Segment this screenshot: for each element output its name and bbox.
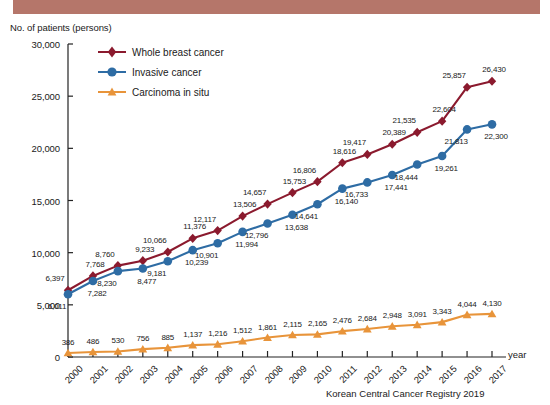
data-point-marker: [164, 247, 172, 256]
data-point-label: 21,813: [444, 137, 467, 146]
data-point-label: 19,261: [434, 164, 457, 173]
data-point-marker: [463, 125, 472, 134]
data-point-label: 17,441: [385, 183, 408, 192]
data-point-marker: [139, 264, 148, 273]
data-point-label: 10,901: [195, 251, 218, 260]
data-point-label: 1,512: [233, 326, 252, 335]
data-point-marker: [89, 277, 98, 286]
data-point-label: 486: [87, 336, 100, 345]
data-point-label: 11,994: [235, 239, 258, 248]
data-point-label: 18,616: [333, 146, 356, 155]
data-point-label: 22,604: [432, 105, 455, 114]
y-axis-tick-label: 0: [14, 352, 60, 363]
data-point-label: 885: [161, 332, 174, 341]
data-point-label: 6,397: [45, 274, 64, 283]
data-point-label: 756: [136, 334, 149, 343]
data-point-label: 2,165: [308, 319, 327, 328]
data-point-marker: [213, 239, 222, 248]
y-axis-tick-label: 25,000: [14, 91, 60, 102]
plot-area: [0, 0, 550, 405]
y-axis-tick-label: 15,000: [14, 195, 60, 206]
data-point-label: 15,753: [283, 176, 306, 185]
data-point-label: 7,282: [87, 289, 106, 298]
data-point-label: 13,506: [233, 200, 256, 209]
data-point-marker: [413, 160, 422, 169]
data-point-label: 1,861: [258, 322, 277, 331]
data-point-label: 3,343: [433, 307, 452, 316]
data-point-marker: [438, 152, 447, 161]
data-point-label: 8,760: [95, 249, 114, 258]
data-point-marker: [263, 199, 271, 208]
data-point-label: 6,011: [48, 302, 66, 311]
y-axis-tick-label: 20,000: [14, 143, 60, 154]
data-point-label: 26,430: [482, 65, 505, 74]
y-axis-tick-label: 10,000: [14, 247, 60, 258]
data-point-label: 14,641: [295, 212, 318, 221]
data-point-label: 4,044: [458, 299, 477, 308]
data-point-marker: [413, 128, 421, 137]
data-point-label: 16,733: [345, 190, 368, 199]
data-point-label: 3,091: [408, 309, 427, 318]
data-point-label: 4,130: [482, 298, 501, 307]
data-point-label: 7,768: [85, 259, 104, 268]
data-point-label: 19,417: [343, 138, 366, 147]
data-point-marker: [238, 211, 246, 220]
data-point-label: 11,376: [183, 222, 206, 231]
data-point-marker: [363, 178, 372, 187]
data-point-marker: [163, 257, 172, 266]
data-point-marker: [189, 234, 197, 243]
data-point-label: 14,657: [243, 188, 266, 197]
data-point-marker: [263, 219, 272, 228]
data-point-label: 10,066: [143, 235, 166, 244]
data-point-label: 530: [112, 336, 125, 345]
y-axis-tick-label: 30,000: [14, 39, 60, 50]
data-point-label: 12,117: [193, 214, 216, 223]
data-point-label: 9,233: [135, 244, 154, 253]
data-point-label: 20,389: [383, 128, 406, 137]
data-point-label: 2,115: [283, 319, 301, 328]
source-note: Korean Central Cancer Registry 2019: [326, 388, 484, 399]
data-point-label: 22,300: [484, 132, 507, 141]
data-point-label: 1,137: [183, 330, 202, 339]
data-point-label: 16,806: [293, 165, 316, 174]
data-point-label: 18,444: [395, 172, 418, 181]
data-point-label: 8,230: [97, 279, 116, 288]
data-point-marker: [213, 226, 221, 235]
data-point-marker: [288, 188, 296, 197]
data-point-marker: [114, 267, 123, 276]
data-point-marker: [363, 150, 371, 159]
data-point-label: 13,638: [285, 222, 308, 231]
data-point-label: 2,476: [333, 316, 352, 325]
data-point-label: 25,857: [442, 71, 465, 80]
data-point-label: 21,535: [393, 116, 416, 125]
data-point-marker: [64, 290, 73, 299]
breast-cancer-incidence-chart: No. of patients (persons) year Whole bre…: [0, 0, 550, 405]
data-point-label: 386: [62, 337, 75, 346]
data-point-label: 9,181: [147, 269, 166, 278]
data-point-marker: [388, 140, 396, 149]
data-point-marker: [313, 200, 322, 209]
data-point-marker: [488, 77, 496, 86]
data-point-label: 1,216: [208, 329, 227, 338]
data-point-label: 2,684: [358, 313, 377, 322]
data-point-marker: [488, 120, 497, 129]
data-point-label: 2,948: [383, 311, 402, 320]
data-point-marker: [139, 256, 147, 265]
data-point-label: 12,796: [245, 231, 268, 240]
